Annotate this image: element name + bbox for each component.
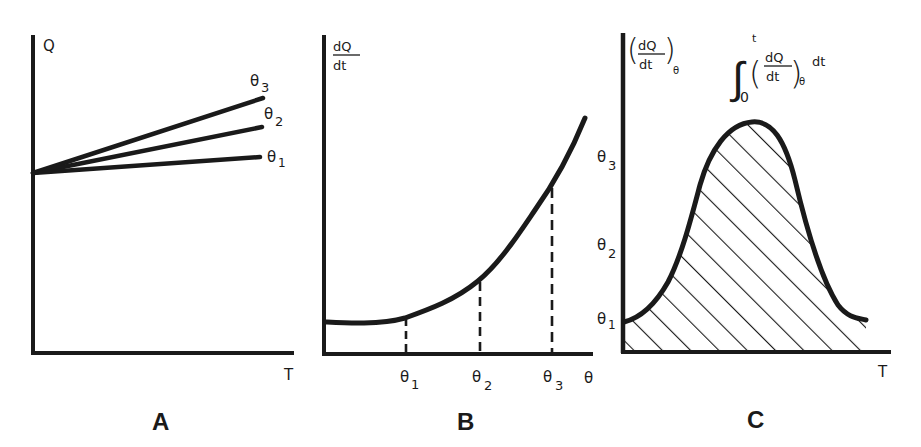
svg-text:dQ: dQ <box>638 38 656 53</box>
rate-curve <box>326 118 585 323</box>
svg-text:3: 3 <box>261 80 269 95</box>
panel-a: Q T θ 3 θ 2 θ 1 A <box>31 35 294 435</box>
svg-text:θ: θ <box>250 72 259 90</box>
label-theta3: θ 3 <box>250 72 269 95</box>
svg-text:dQ: dQ <box>333 39 351 54</box>
panel-b-y-label: dQ dt <box>333 39 360 73</box>
ytick-theta1: θ 1 <box>597 310 616 332</box>
svg-text:0: 0 <box>740 89 749 105</box>
svg-text:1: 1 <box>411 377 419 392</box>
tick-theta2: θ 2 <box>472 368 492 393</box>
hatched-area <box>620 100 880 360</box>
svg-text:t: t <box>752 32 757 45</box>
panel-c-letter: C <box>747 406 764 433</box>
svg-text:θ: θ <box>597 236 606 254</box>
ytick-theta2: θ 2 <box>597 236 616 261</box>
svg-text:dt: dt <box>333 58 346 73</box>
panel-b-x-label: θ <box>584 369 593 387</box>
integral-annotation: ∫ t 0 ( dQ dt ) θ dt <box>729 32 825 105</box>
svg-text:dt: dt <box>639 57 652 72</box>
svg-text:θ: θ <box>597 310 606 328</box>
panel-c-x-label: T <box>877 363 888 381</box>
svg-text:θ: θ <box>799 76 805 87</box>
svg-text:dt: dt <box>766 69 779 84</box>
svg-text:3: 3 <box>555 378 563 393</box>
svg-text:(: ( <box>627 32 639 67</box>
svg-text:θ: θ <box>472 368 481 386</box>
ytick-theta3: θ 3 <box>597 148 616 173</box>
panel-a-y-label: Q <box>43 37 55 55</box>
panel-c: ( dQ dt ) θ ∫ t 0 ( dQ dt ) θ dt θ 3 θ 2 <box>597 32 891 433</box>
svg-text:θ: θ <box>264 105 273 123</box>
svg-text:θ: θ <box>267 148 276 166</box>
panel-c-y-label: ( dQ dt ) θ <box>627 32 679 76</box>
tick-theta3: θ 3 <box>543 368 563 393</box>
svg-text:(: ( <box>749 54 761 92</box>
svg-text:3: 3 <box>608 158 616 173</box>
label-theta2: θ 2 <box>264 105 283 129</box>
svg-text:dt: dt <box>812 54 825 69</box>
panel-b: dQ dt θ 1 θ 2 θ 3 θ B <box>322 35 593 435</box>
panel-b-letter: B <box>457 408 474 435</box>
svg-text:): ) <box>664 32 676 67</box>
panel-a-letter: A <box>152 408 169 435</box>
svg-text:θ: θ <box>400 368 409 386</box>
svg-text:1: 1 <box>608 318 616 332</box>
svg-text:θ: θ <box>673 65 679 76</box>
svg-text:dQ: dQ <box>765 50 783 65</box>
label-theta1: θ 1 <box>267 148 286 170</box>
figure-canvas: Q T θ 3 θ 2 θ 1 A dQ dt <box>0 0 921 447</box>
svg-text:2: 2 <box>608 246 616 261</box>
svg-text:2: 2 <box>484 378 492 393</box>
svg-text:θ: θ <box>597 148 606 166</box>
panel-a-x-label: T <box>283 366 294 384</box>
svg-text:θ: θ <box>543 368 552 386</box>
svg-text:2: 2 <box>275 114 283 129</box>
tick-theta1: θ 1 <box>400 368 419 392</box>
svg-text:1: 1 <box>278 156 286 170</box>
